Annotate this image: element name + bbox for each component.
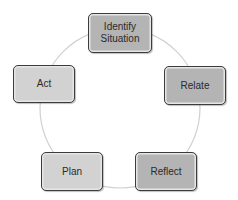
node-label-line1: Identify bbox=[101, 21, 140, 33]
node-label: Relate bbox=[181, 80, 210, 92]
node-relate: Relate bbox=[164, 66, 226, 105]
node-label: Reflect bbox=[150, 166, 181, 178]
node-identify-situation: Identify Situation bbox=[88, 13, 152, 53]
node-label-line2: Situation bbox=[101, 33, 140, 45]
node-plan: Plan bbox=[41, 152, 103, 191]
node-act: Act bbox=[13, 65, 75, 103]
cycle-diagram: Identify Situation Relate Reflect Plan A… bbox=[0, 0, 238, 200]
node-reflect: Reflect bbox=[135, 152, 197, 191]
node-label: Plan bbox=[62, 166, 82, 178]
node-label: Act bbox=[37, 78, 51, 90]
